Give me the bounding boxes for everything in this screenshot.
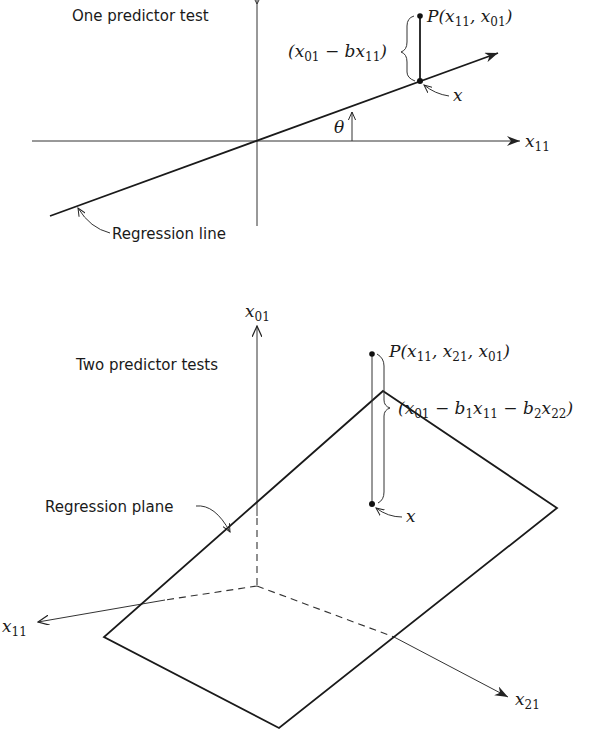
two-predictor-title: Two predictor tests	[75, 356, 218, 374]
regression-plane-label: Regression plane	[45, 498, 173, 516]
point-p	[417, 13, 423, 19]
projection-pointer-icon	[376, 508, 402, 517]
projection-label: x	[406, 506, 416, 526]
x21-axis	[394, 637, 508, 697]
x11-axis-label: x11	[525, 131, 550, 154]
point-p	[369, 351, 375, 357]
residual-label: (x01 − bx11)	[288, 41, 387, 64]
residual-label: (x01 − b1x11 − b2x22)	[398, 398, 573, 421]
regression-diagram-canvas: One predictor test x11 θ P(x11, x01) (x0…	[0, 0, 600, 745]
regression-line-label: Regression line	[112, 225, 226, 243]
projection-point	[369, 501, 375, 507]
residual-brace-icon	[377, 354, 390, 503]
two-predictor-diagram: Two predictor tests x01 x11 x21 Regressi…	[2, 301, 573, 728]
regression-plane	[104, 391, 557, 728]
one-predictor-diagram: One predictor test x11 θ P(x11, x01) (x0…	[32, 0, 550, 243]
x11-axis-hidden	[165, 586, 257, 600]
theta-label: θ	[334, 117, 344, 137]
projection-pointer-icon	[424, 85, 449, 96]
x21-axis-hidden	[257, 586, 394, 637]
x11-axis	[38, 600, 165, 622]
x01-axis-label: x01	[245, 301, 270, 324]
point-p-label: P(x11, x21, x01)	[388, 341, 510, 364]
projection-label: x	[453, 85, 463, 105]
regression-line-pointer-icon	[78, 208, 110, 233]
x21-axis-label: x21	[515, 689, 540, 712]
regression-plane-pointer-icon	[196, 506, 230, 532]
point-p-label: P(x11, x01)	[426, 6, 512, 29]
one-predictor-title: One predictor test	[72, 7, 209, 25]
residual-brace-icon	[401, 16, 415, 81]
x11-axis-label: x11	[2, 616, 27, 639]
regression-line	[50, 53, 498, 216]
projection-point	[417, 78, 423, 84]
